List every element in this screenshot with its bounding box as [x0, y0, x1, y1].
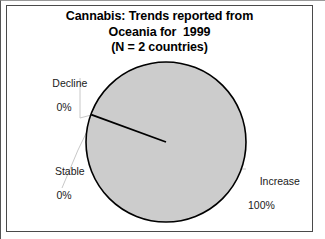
- pie-label-increase: Increase 100%: [248, 163, 314, 235]
- pie-chart-figure: Cannabis: Trends reported from Oceania f…: [0, 0, 325, 239]
- pie-label-decline-name: Decline: [52, 77, 87, 89]
- pie-label-increase-name: Increase: [260, 175, 300, 187]
- pie-label-decline: Decline 0%: [33, 65, 95, 137]
- pie-label-stable: Stable 0%: [33, 153, 95, 225]
- pie-label-decline-value: 0%: [33, 101, 95, 113]
- pie-label-stable-name: Stable: [55, 165, 85, 177]
- pie-label-increase-value: 100%: [248, 199, 314, 211]
- pie-label-stable-value: 0%: [33, 189, 95, 201]
